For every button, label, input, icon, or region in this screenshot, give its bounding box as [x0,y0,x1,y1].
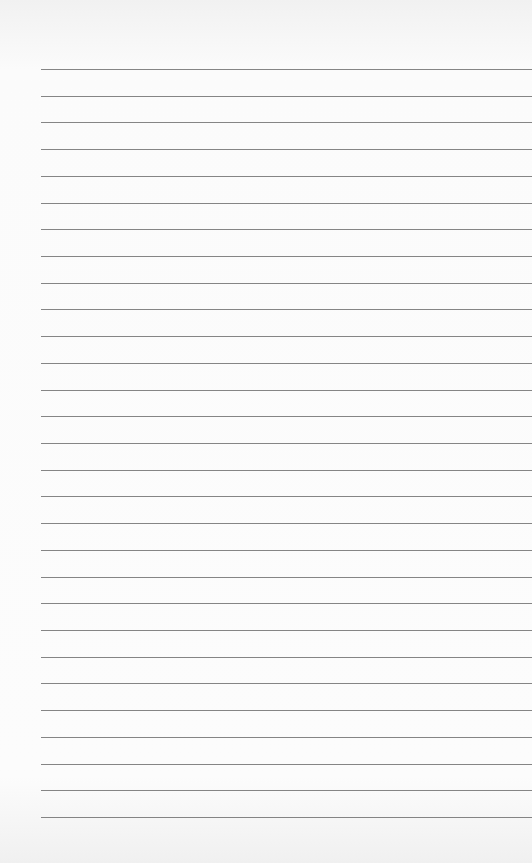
ruled-line [41,149,532,150]
ruled-line [41,390,532,391]
ruled-line [41,657,532,658]
ruled-line [41,577,532,578]
ruled-line [41,737,532,738]
ruled-line [41,443,532,444]
ruled-line [41,603,532,604]
ruled-line [41,764,532,765]
ruled-line [41,630,532,631]
ruled-line [41,229,532,230]
ruled-line [41,416,532,417]
ruled-line [41,817,532,818]
ruled-line [41,336,532,337]
ruled-line [41,309,532,310]
ruled-line [41,283,532,284]
ruled-line [41,69,532,70]
ruled-line [41,683,532,684]
ruled-line [41,550,532,551]
ruled-line [41,256,532,257]
ruled-line [41,790,532,791]
ruled-line [41,203,532,204]
ruled-line [41,363,532,364]
ruled-line [41,710,532,711]
ruled-line [41,523,532,524]
ruled-line [41,122,532,123]
ruled-line [41,496,532,497]
ruled-line [41,470,532,471]
ruled-line [41,96,532,97]
ruled-line [41,176,532,177]
lined-paper-sheet [0,0,532,863]
